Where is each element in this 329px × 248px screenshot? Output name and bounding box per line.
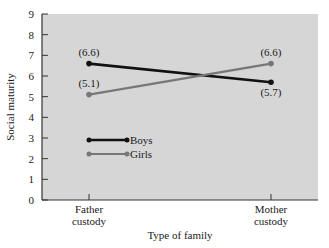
data-point-marker bbox=[86, 61, 92, 67]
y-tick-label: 9 bbox=[29, 8, 35, 20]
data-label: (5.1) bbox=[78, 77, 99, 90]
y-tick-label: 3 bbox=[29, 132, 35, 144]
y-tick-label: 8 bbox=[29, 29, 35, 41]
x-axis-label: Type of family bbox=[147, 229, 213, 241]
y-tick-label: 1 bbox=[29, 173, 35, 185]
plot-area bbox=[42, 14, 318, 200]
y-tick-label: 6 bbox=[29, 70, 35, 82]
y-tick-label: 5 bbox=[29, 91, 35, 103]
x-tick-label: custody bbox=[254, 215, 289, 227]
legend-marker bbox=[87, 138, 92, 143]
y-tick-label: 7 bbox=[29, 49, 35, 61]
data-label: (6.6) bbox=[78, 46, 99, 59]
legend-label-boys: Boys bbox=[130, 134, 153, 146]
legend-marker bbox=[125, 152, 130, 157]
data-label: (5.7) bbox=[260, 86, 281, 99]
data-point-marker bbox=[268, 61, 274, 67]
legend-marker bbox=[125, 138, 130, 143]
data-label: (6.6) bbox=[260, 46, 281, 59]
x-tick-label: custody bbox=[72, 215, 107, 227]
y-tick-label: 0 bbox=[29, 194, 35, 206]
y-tick-label: 2 bbox=[29, 153, 35, 165]
x-tick-label: Mother bbox=[255, 203, 288, 215]
x-tick-label: Father bbox=[75, 203, 103, 215]
line-chart: 0123456789 FathercustodyMothercustody So… bbox=[0, 0, 329, 248]
y-tick-label: 4 bbox=[29, 111, 35, 123]
legend-label-girls: Girls bbox=[130, 148, 152, 160]
data-point-marker bbox=[268, 79, 274, 85]
data-point-marker bbox=[86, 92, 92, 98]
legend-marker bbox=[87, 152, 92, 157]
y-axis-label: Social maturity bbox=[4, 73, 16, 141]
